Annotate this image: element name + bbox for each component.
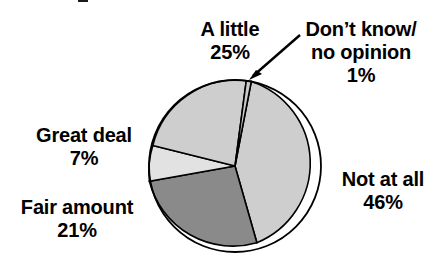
pie-label-fair-amount: Fair amount 21% [6, 196, 148, 242]
pie-label-dont-know-line1: Don’t know/ [305, 18, 416, 40]
pie-label-not-at-all: Not at all 46% [330, 168, 436, 214]
pie-label-a-little-text: A little [201, 18, 260, 40]
pie-label-great-deal-value: 7% [22, 147, 146, 170]
pie-label-a-little: A little 25% [181, 18, 279, 64]
pie-label-fair-amount-value: 21% [6, 219, 148, 242]
pie-label-great-deal-text: Great deal [36, 124, 132, 146]
pie-label-dont-know-value: 1% [288, 64, 434, 87]
pie-label-fair-amount-text: Fair amount [21, 196, 133, 218]
pie-label-dont-know-line2: no opinion [288, 41, 434, 64]
pie-chart-figure: A little 25% Don’t know/ no opinion 1% N… [0, 0, 439, 269]
pie-label-not-at-all-value: 46% [330, 191, 436, 214]
pie-label-a-little-value: 25% [181, 41, 279, 64]
pie-label-dont-know: Don’t know/ no opinion 1% [288, 18, 434, 87]
pie-label-great-deal: Great deal 7% [22, 124, 146, 170]
pie-label-not-at-all-text: Not at all [342, 168, 424, 190]
